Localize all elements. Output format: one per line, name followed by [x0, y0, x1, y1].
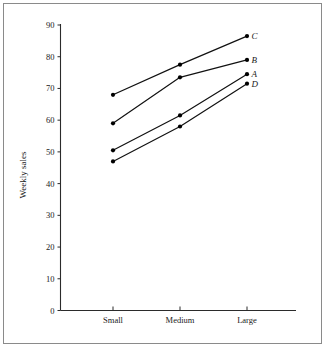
chart-figure: 0102030405060708090 SmallMediumLarge Wee…: [0, 0, 326, 348]
x-tick-label: Medium: [166, 315, 195, 325]
y-tick-label: 50: [46, 147, 55, 157]
series-label-B: B: [252, 55, 258, 65]
series-label-C: C: [252, 31, 259, 41]
data-point-B: [178, 75, 182, 79]
series-markers-group: [111, 34, 249, 164]
data-point-D: [245, 82, 249, 86]
x-axis-tick-labels: SmallMediumLarge: [103, 315, 257, 325]
series-label-D: D: [251, 79, 259, 89]
series-end-labels: ABCD: [251, 31, 259, 89]
series-lines-group: [113, 36, 247, 161]
y-axis-title: Weekly sales: [18, 151, 28, 199]
series-label-A: A: [251, 69, 258, 79]
data-point-A: [111, 148, 115, 152]
data-point-B: [111, 121, 115, 125]
y-tick-label: 30: [46, 210, 55, 220]
series-line-D: [113, 84, 247, 162]
data-point-D: [178, 124, 182, 128]
x-tick-label: Small: [103, 315, 123, 325]
y-axis: 0102030405060708090: [46, 20, 61, 316]
y-axis-tick-labels: 0102030405060708090: [46, 20, 55, 316]
y-tick-label: 80: [46, 52, 55, 62]
data-point-C: [111, 93, 115, 97]
data-point-C: [178, 63, 182, 67]
y-tick-label: 0: [50, 306, 54, 316]
y-tick-label: 90: [46, 20, 55, 30]
x-axis: SmallMediumLarge: [61, 307, 297, 325]
data-point-D: [111, 159, 115, 163]
y-tick-label: 20: [46, 242, 55, 252]
data-point-C: [245, 34, 249, 38]
data-point-A: [245, 72, 249, 76]
line-chart: 0102030405060708090 SmallMediumLarge Wee…: [0, 0, 326, 348]
y-tick-label: 10: [46, 274, 55, 284]
data-point-B: [245, 58, 249, 62]
y-tick-label: 40: [46, 179, 55, 189]
x-axis-ticks: [113, 307, 247, 311]
y-tick-label: 70: [46, 83, 55, 93]
y-tick-label: 60: [46, 115, 55, 125]
data-point-A: [178, 113, 182, 117]
x-tick-label: Large: [237, 315, 257, 325]
